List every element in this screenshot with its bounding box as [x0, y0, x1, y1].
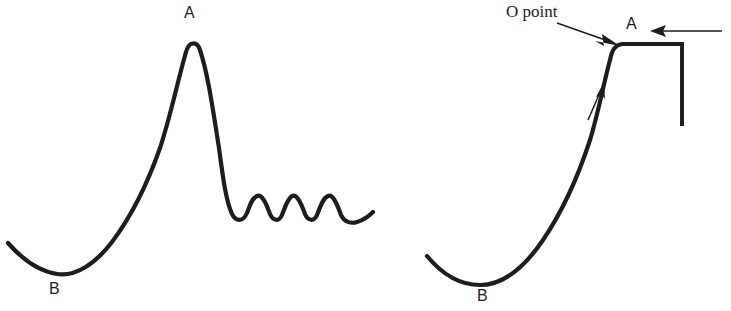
o-point-label: O point: [506, 3, 557, 20]
o-point-arrow-head: [595, 34, 620, 46]
left-peak-label-a: A: [184, 5, 195, 21]
left-curve-group: [8, 43, 373, 274]
left-valley-label-b: B: [49, 281, 60, 297]
right-valley-label-b: B: [477, 288, 488, 304]
left-main-curve: [8, 43, 373, 274]
right-curve-group: [427, 44, 682, 285]
right-plateau-and-drop: [622, 44, 682, 126]
figure-root: A B O point A B: [0, 0, 731, 311]
right-peak-label-a: A: [626, 16, 637, 32]
figure-canvas: [0, 0, 731, 311]
o-point-arrow: [557, 23, 620, 46]
plateau-arrow: [650, 25, 722, 37]
right-main-curve: [427, 44, 622, 285]
